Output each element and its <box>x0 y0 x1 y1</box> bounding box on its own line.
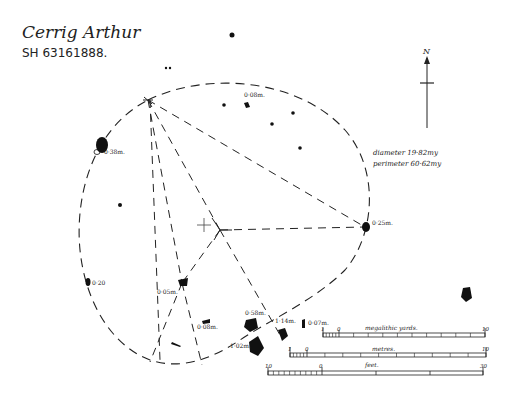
site-title: Cerrig Arthur <box>22 22 141 42</box>
scale-my-end: 10 <box>482 326 489 332</box>
scale-ft-zero: 0 <box>319 363 323 369</box>
scale-m-end: 10 <box>482 346 489 352</box>
stone-label: 0·25m. <box>372 219 393 226</box>
scale-ft-start: 10 <box>265 363 272 369</box>
grid-reference: SH 63161888. <box>22 46 107 60</box>
scale-ft-end: 30 <box>480 363 487 369</box>
stone <box>86 278 91 286</box>
stone-label: 0·07m. <box>308 319 329 326</box>
stone <box>171 342 181 347</box>
stone-label: 0·38m. <box>104 148 125 155</box>
scale-ft-label: feet. <box>364 361 379 369</box>
stone-dot <box>270 122 274 126</box>
stone-dot <box>165 67 167 69</box>
diameter-label: diameter 19·82my <box>373 149 439 157</box>
scale-my-label: megalithic yards. <box>365 324 418 332</box>
stone-label: 0·58m. <box>245 309 266 316</box>
stone <box>362 222 370 232</box>
north-label: N <box>422 47 431 56</box>
stone-label: 1·02m. <box>230 342 251 349</box>
stones <box>86 33 473 357</box>
stone-dot <box>118 203 122 207</box>
stone-dot <box>169 67 171 69</box>
stone-label: 1·14m. <box>275 317 296 324</box>
stone-label: 0·20 <box>92 279 106 286</box>
stone <box>278 328 288 341</box>
stone <box>244 102 250 108</box>
scale-m-zero: 0 <box>305 346 309 352</box>
stone-dot <box>222 103 226 107</box>
stone <box>302 319 305 328</box>
scale-my-zero: 0 <box>337 326 341 332</box>
perimeter-label: perimeter 60·62my <box>373 160 442 168</box>
centre-y-junction <box>212 218 232 240</box>
stone-label: 0·08m. <box>244 91 265 98</box>
stone <box>178 278 188 286</box>
stone <box>249 336 264 356</box>
stone-label: 0·08m. <box>197 323 218 330</box>
north-arrow-icon <box>420 56 434 128</box>
stone-dot <box>298 146 302 150</box>
scale-m-label: metres. <box>372 345 395 352</box>
stone-outlier <box>461 287 472 302</box>
centre-cross-icon <box>197 218 211 232</box>
scale-my-start: 1 <box>321 326 325 332</box>
stone-dot <box>291 111 295 115</box>
stone-dot <box>230 33 235 38</box>
stone-label: 0·05m. <box>157 288 178 295</box>
stone-circle-plan: Cerrig Arthur SH 63161888. N diameter 19… <box>0 0 510 397</box>
scale-ticks <box>273 333 470 375</box>
scale-m-start: 1 <box>288 346 292 352</box>
